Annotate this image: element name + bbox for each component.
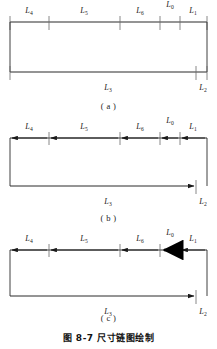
- link-label-L5: L5: [79, 6, 88, 16]
- link-label-L5: L5: [79, 122, 88, 132]
- link-label-L3: L3: [103, 83, 112, 93]
- link-label-L6: L6: [135, 6, 144, 16]
- link-label-L4: L4: [24, 234, 33, 244]
- diagram-a: L4 L5 L6 L0 L1 L: [0, 0, 217, 116]
- figure-dimension-chain: L4 L5 L6 L0 L1 L: [0, 0, 217, 349]
- link-label-L0: L0: [165, 116, 174, 126]
- sublabel-b: ( b ): [0, 213, 217, 223]
- diagram-a-svg: L4 L5 L6 L0 L1 L: [0, 0, 217, 100]
- link-label-L5: L5: [79, 234, 88, 244]
- link-label-L4: L4: [24, 122, 33, 132]
- sublabel-c: ( c ): [0, 313, 217, 323]
- link-label-L1: L1: [188, 234, 197, 244]
- link-label-L6: L6: [135, 234, 144, 244]
- diagram-b-svg: L4 L5 L6 L0 L1 L3 L2: [0, 116, 217, 216]
- link-label-L1: L1: [188, 122, 197, 132]
- diagram-b: L4 L5 L6 L0 L1 L3 L2: [0, 116, 217, 228]
- link-label-L3: L3: [103, 197, 112, 207]
- link-label-L0: L0: [165, 228, 174, 238]
- link-label-L1: L1: [188, 6, 197, 16]
- link-label-L2: L2: [198, 83, 207, 93]
- link-label-L0: L0: [165, 0, 174, 10]
- figure-caption: 图 8-7 尺寸链图绘制: [0, 331, 217, 344]
- link-label-L2: L2: [198, 197, 207, 207]
- diagram-c-svg: L4 L5 L6 L0 L1 L3 L2: [0, 228, 217, 320]
- sublabel-a: ( a ): [0, 101, 217, 111]
- link-label-L4: L4: [24, 6, 33, 16]
- link-label-L6: L6: [135, 122, 144, 132]
